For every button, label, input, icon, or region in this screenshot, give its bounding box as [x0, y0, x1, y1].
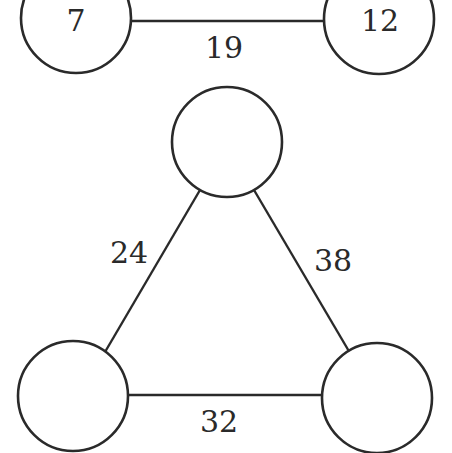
node-bottom-right-empty: [322, 343, 432, 453]
node-label: 7: [66, 3, 85, 38]
edge-label-24: 24: [110, 235, 148, 270]
node-bottom-left-empty: [18, 341, 128, 451]
node-top-empty: [172, 87, 282, 197]
node-7: 7: [21, 0, 131, 73]
edge-label-32: 32: [200, 404, 238, 439]
edge-label-38: 38: [314, 243, 352, 278]
edge-label-19: 19: [205, 30, 243, 65]
graph-diagram: 7 12 19 24 38 32: [0, 0, 452, 453]
edge-top-bottomleft: [105, 190, 200, 352]
node-12: 12: [324, 0, 434, 74]
node-label: 12: [361, 3, 399, 38]
